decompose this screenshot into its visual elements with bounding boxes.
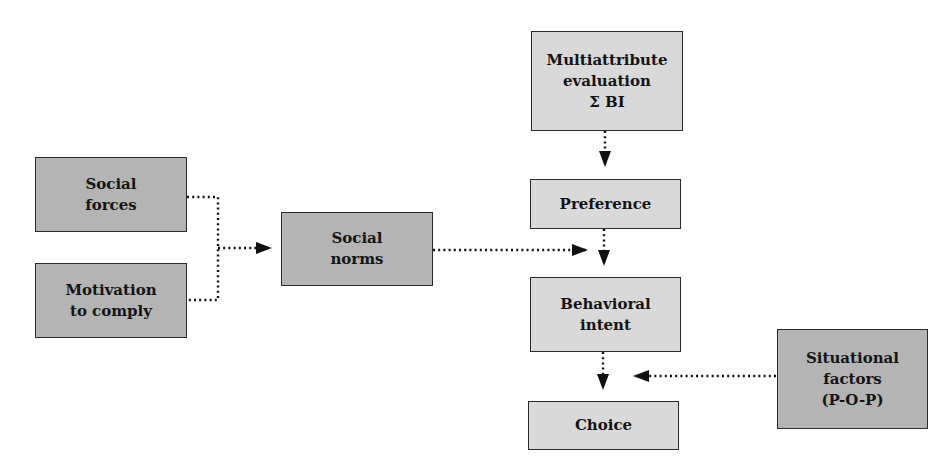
node-label: Σ BI xyxy=(589,92,625,113)
node-label: Multiattribute xyxy=(547,50,668,71)
node-label: to comply xyxy=(70,301,152,322)
node-label: (P-O-P) xyxy=(822,390,884,411)
node-label: Preference xyxy=(560,194,652,215)
node-label: Situational xyxy=(806,348,899,369)
node-label: Choice xyxy=(575,415,632,436)
node-situational-factors: Situational factors (P-O-P) xyxy=(777,329,928,429)
node-behavioral-intent: Behavioral intent xyxy=(530,277,681,352)
node-label: Behavioral xyxy=(560,294,651,315)
node-label: Motivation xyxy=(65,280,156,301)
node-label: intent xyxy=(580,315,631,336)
node-label: evaluation xyxy=(563,71,651,92)
node-label: forces xyxy=(85,195,136,216)
node-motivation-to-comply: Motivation to comply xyxy=(35,263,187,338)
node-preference: Preference xyxy=(530,179,681,229)
node-label: factors xyxy=(823,369,882,390)
node-multiattribute-evaluation: Multiattribute evaluation Σ BI xyxy=(531,31,683,131)
node-choice: Choice xyxy=(528,401,679,450)
node-label: Social xyxy=(85,174,136,195)
edge-social-forces xyxy=(187,197,218,300)
node-label: norms xyxy=(330,249,383,270)
node-social-forces: Social forces xyxy=(35,157,187,232)
node-social-norms: Social norms xyxy=(281,212,433,286)
node-label: Social xyxy=(331,228,382,249)
